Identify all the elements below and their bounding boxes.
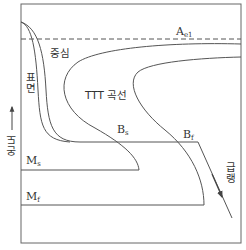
ae1-sub: e1: [184, 31, 193, 39]
ms-main: M: [26, 154, 37, 167]
center-label: 중심: [50, 48, 70, 59]
ttt-start-curve: [64, 44, 241, 170]
bf-label: Bf: [183, 129, 194, 142]
bf-sub: f: [191, 134, 194, 142]
mf-label: Mf: [26, 191, 40, 204]
quench-label: 급랭: [225, 162, 236, 184]
bs-main: B: [117, 123, 125, 136]
quench-arrow-icon: [212, 174, 222, 197]
mf-sub: f: [37, 196, 40, 204]
surface-label: 표면: [25, 72, 36, 94]
temperature-axis-label: 온도: [6, 134, 17, 156]
ms-sub: s: [37, 160, 41, 168]
plot-frame: [21, 4, 241, 243]
ae1-main: A: [176, 25, 184, 38]
bs-sub: s: [125, 129, 129, 137]
ae1-label: Ae1: [176, 26, 193, 39]
bs-label: Bs: [117, 124, 129, 137]
mf-main: M: [26, 190, 37, 203]
ms-label: Ms: [26, 155, 41, 168]
bf-main: B: [183, 128, 191, 141]
ttt-curve-label: TTT 곡선: [85, 90, 127, 101]
